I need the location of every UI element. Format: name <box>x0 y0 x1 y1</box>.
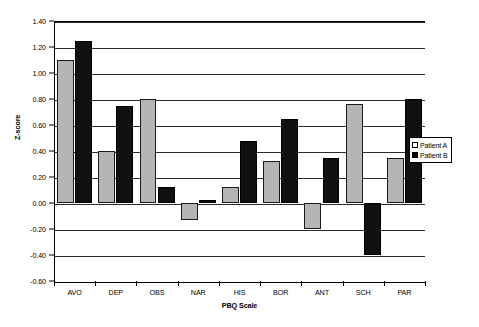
x-tick-mark <box>384 281 385 286</box>
gridline <box>55 282 425 283</box>
x-tick-mark <box>301 281 302 286</box>
bar-avo-patient-b <box>75 41 92 204</box>
legend-item: Patient B <box>412 150 448 160</box>
bar-par-patient-a <box>387 158 404 204</box>
x-tick-label-ant: ANT <box>315 288 329 297</box>
legend-label-patient-b: Patient B <box>420 152 448 159</box>
x-tick-mark <box>260 281 261 286</box>
bar-bor-patient-a <box>263 161 280 203</box>
y-tick-label: -0.20 <box>30 225 46 234</box>
bar-obs-patient-b <box>158 187 175 203</box>
bar-dep-patient-a <box>98 151 115 203</box>
gridline <box>55 256 425 257</box>
legend-item: Patient A <box>412 140 448 150</box>
y-axis: 1.401.201.000.800.600.400.200.00-0.20-0.… <box>0 0 54 327</box>
bar-nar-patient-b <box>199 200 216 203</box>
x-tick-mark <box>425 281 426 286</box>
bar-ant-patient-a <box>304 203 321 229</box>
bar-obs-patient-a <box>140 99 157 203</box>
x-axis-title: PBQ Scale <box>0 301 479 310</box>
bar-sch-patient-b <box>364 203 381 255</box>
y-tick-label: -0.60 <box>30 277 46 286</box>
y-tick-label: 1.00 <box>32 69 46 78</box>
bar-avo-patient-a <box>57 60 74 203</box>
bar-bor-patient-b <box>281 119 298 204</box>
y-tick-label: 0.60 <box>32 121 46 130</box>
legend-swatch-patient-a <box>412 142 418 148</box>
x-tick-label-par: PAR <box>397 288 411 297</box>
x-tick-label-dep: DEP <box>109 288 123 297</box>
chart-legend: Patient A Patient B <box>409 137 452 163</box>
x-tick-mark <box>95 281 96 286</box>
bar-nar-patient-a <box>181 203 198 220</box>
y-tick-label: 0.40 <box>32 147 46 156</box>
y-tick-label: 0.80 <box>32 95 46 104</box>
bar-his-patient-a <box>222 187 239 203</box>
bar-his-patient-b <box>240 141 257 203</box>
gridline <box>55 126 425 127</box>
bar-ant-patient-b <box>323 158 340 204</box>
x-tick-mark <box>178 281 179 286</box>
x-tick-label-sch: SCH <box>356 288 371 297</box>
x-tick-label-his: HIS <box>234 288 246 297</box>
bar-dep-patient-b <box>116 106 133 204</box>
gridline <box>55 22 425 23</box>
bar-chart: 1.401.201.000.800.600.400.200.00-0.20-0.… <box>0 0 479 327</box>
gridline <box>55 74 425 75</box>
x-tick-mark <box>54 281 55 286</box>
y-tick-label: 1.20 <box>32 43 46 52</box>
y-axis-title: Z-score <box>13 115 22 140</box>
y-tick-label: 0.00 <box>32 199 46 208</box>
gridline <box>55 100 425 101</box>
x-tick-mark <box>343 281 344 286</box>
y-tick-label: 1.40 <box>32 17 46 26</box>
y-tick-label: 0.20 <box>32 173 46 182</box>
y-tick-label: -0.40 <box>30 251 46 260</box>
legend-label-patient-a: Patient A <box>420 142 447 149</box>
x-tick-label-obs: OBS <box>150 288 165 297</box>
bar-sch-patient-a <box>346 104 363 203</box>
x-tick-label-nar: NAR <box>191 288 206 297</box>
x-tick-mark <box>136 281 137 286</box>
legend-swatch-patient-b <box>412 152 418 158</box>
gridline <box>55 48 425 49</box>
x-tick-label-bor: BOR <box>273 288 288 297</box>
x-tick-mark <box>219 281 220 286</box>
x-tick-label-avo: AVO <box>67 288 81 297</box>
